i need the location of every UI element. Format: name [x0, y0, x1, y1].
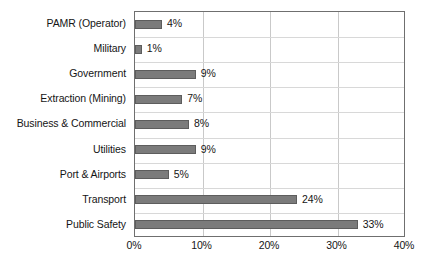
bar-chart-figure: PAMR (Operator)MilitaryGovernmentExtract…	[0, 0, 429, 265]
bar-row: 8%	[135, 112, 406, 137]
x-axis-tick-label: 20%	[259, 239, 280, 251]
bar-row: 9%	[135, 138, 406, 163]
category-label: Military	[0, 36, 130, 61]
bar-row: 5%	[135, 163, 406, 188]
bar-value-label: 24%	[302, 193, 323, 205]
value-axis: 0%10%20%30%40%	[134, 239, 405, 259]
bar-row: 9%	[135, 62, 406, 87]
bar-row: 33%	[135, 213, 406, 238]
bar-value-label: 9%	[201, 67, 216, 79]
category-label-text: Utilities	[93, 144, 130, 155]
bar	[135, 120, 189, 129]
bar	[135, 20, 162, 29]
category-label-text: PAMR (Operator)	[47, 18, 130, 29]
category-axis: PAMR (Operator)MilitaryGovernmentExtract…	[0, 11, 130, 237]
bar-value-label: 9%	[201, 143, 216, 155]
bar-value-label: 8%	[194, 117, 209, 129]
category-label: Public Safety	[0, 212, 130, 237]
x-axis-tick-label: 30%	[326, 239, 347, 251]
category-label: Port & Airports	[0, 162, 130, 187]
bar	[135, 195, 297, 204]
category-label-text: Business & Commercial	[17, 118, 130, 129]
bar	[135, 95, 182, 104]
x-axis-tick-label: 10%	[191, 239, 212, 251]
bar-row: 4%	[135, 12, 406, 37]
bar-value-label: 5%	[174, 168, 189, 180]
category-label: Utilities	[0, 137, 130, 162]
bar-row: 24%	[135, 188, 406, 213]
category-label: Transport	[0, 187, 130, 212]
category-label: PAMR (Operator)	[0, 11, 130, 36]
bar	[135, 145, 196, 154]
bar-value-label: 7%	[187, 92, 202, 104]
bar	[135, 70, 196, 79]
bar	[135, 220, 358, 229]
bar-value-label: 33%	[363, 218, 384, 230]
plot-area: 4%1%9%7%8%9%5%24%33%	[134, 11, 405, 237]
category-label-text: Government	[69, 68, 130, 79]
category-label: Business & Commercial	[0, 111, 130, 136]
category-label: Extraction (Mining)	[0, 86, 130, 111]
bar-row: 1%	[135, 37, 406, 62]
bar	[135, 45, 142, 54]
bar-row: 7%	[135, 87, 406, 112]
category-label-text: Transport	[82, 194, 130, 205]
bar	[135, 170, 169, 179]
category-label-text: Port & Airports	[60, 169, 130, 180]
category-label-text: Public Safety	[66, 219, 130, 230]
x-axis-tick-label: 0%	[127, 239, 142, 251]
category-label: Government	[0, 61, 130, 86]
x-axis-tick-label: 40%	[394, 239, 415, 251]
bar-value-label: 4%	[167, 17, 182, 29]
bar-value-label: 1%	[147, 42, 162, 54]
category-label-text: Extraction (Mining)	[40, 93, 130, 104]
category-label-text: Military	[94, 43, 130, 54]
